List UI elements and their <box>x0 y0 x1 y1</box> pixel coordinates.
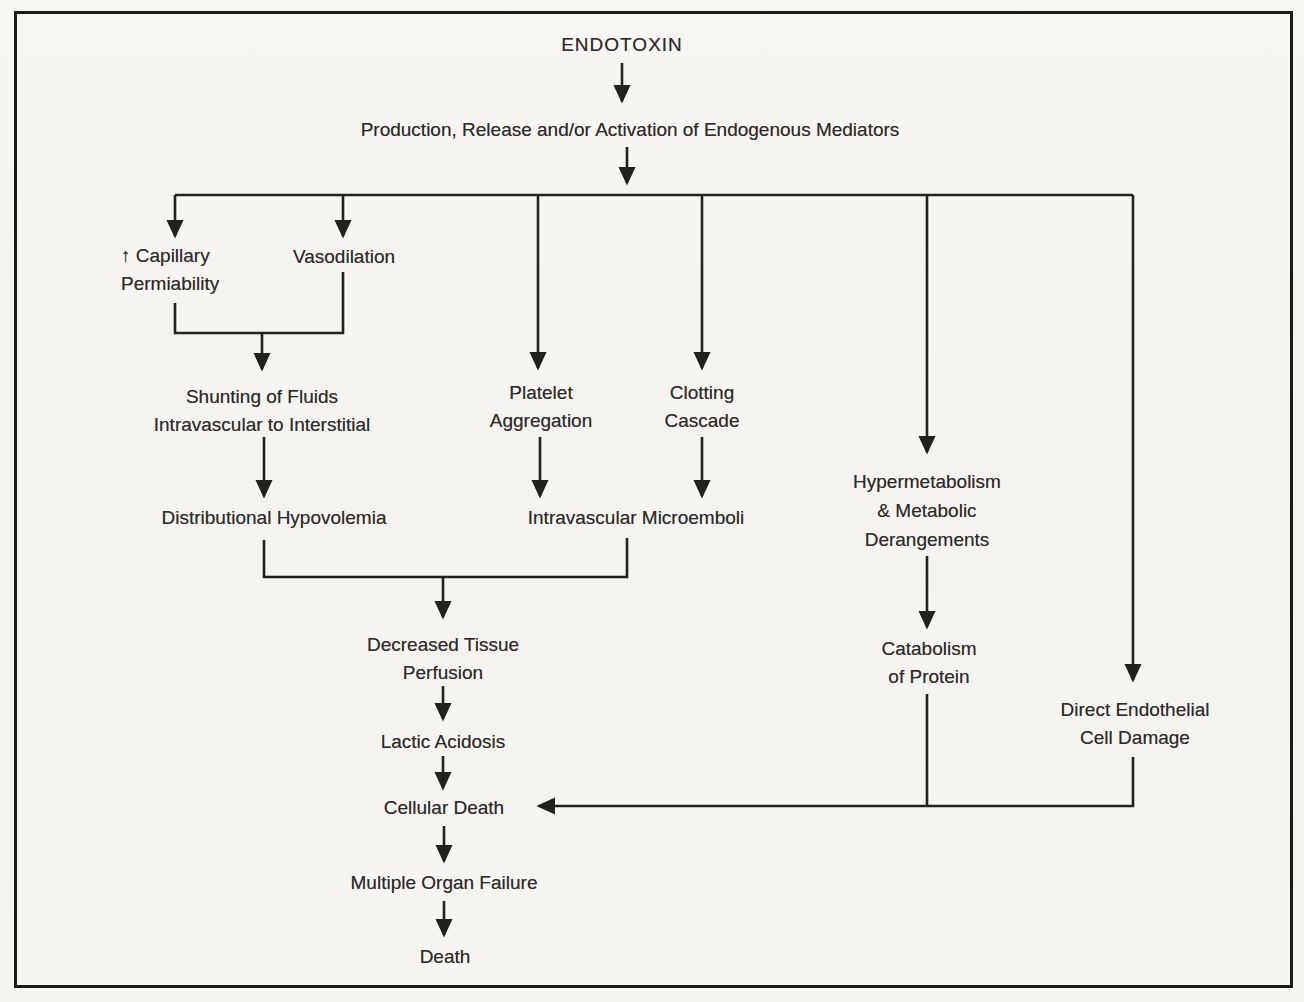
node-perfusion-line2: Perfusion <box>367 659 519 687</box>
node-hypermetabolism-line2: & Metabolic <box>853 496 1001 525</box>
node-death-label: Death <box>420 943 471 970</box>
node-microemboli-label: Intravascular Microemboli <box>528 504 744 531</box>
edge-endothelial-cellular <box>539 757 1133 806</box>
node-platelet-line2: Aggregation <box>490 407 592 435</box>
node-cellular-death-label: Cellular Death <box>384 794 504 821</box>
node-mediators-label: Production, Release and/or Activation of… <box>361 116 900 143</box>
node-clotting-cascade: Clotting Cascade <box>665 379 740 435</box>
node-mof-label: Multiple Organ Failure <box>351 869 538 896</box>
node-catabolism-of-protein: Catabolism of Protein <box>881 635 976 691</box>
node-hypermetabolism-line1: Hypermetabolism <box>853 467 1001 496</box>
node-mediators: Production, Release and/or Activation of… <box>361 116 900 143</box>
node-shunting-line2: Intravascular to Interstitial <box>154 411 370 439</box>
node-endotoxin-label: ENDOTOXIN <box>561 31 683 58</box>
node-vasodilation-label: Vasodilation <box>293 243 395 270</box>
node-decreased-tissue-perfusion: Decreased Tissue Perfusion <box>367 631 519 687</box>
scanned-page-background: ENDOTOXIN Production, Release and/or Act… <box>0 0 1304 1002</box>
node-endothelial-line1: Direct Endothelial <box>1061 696 1210 724</box>
node-multiple-organ-failure: Multiple Organ Failure <box>351 869 538 896</box>
node-shunting-line1: Shunting of Fluids <box>154 383 370 411</box>
node-clotting-line1: Clotting <box>665 379 740 407</box>
node-catabolism-line1: Catabolism <box>881 635 976 663</box>
node-platelet-line1: Platelet <box>490 379 592 407</box>
node-hypovolemia-label: Distributional Hypovolemia <box>162 504 387 531</box>
node-cellular-death: Cellular Death <box>384 794 504 821</box>
node-shunting: Shunting of Fluids Intravascular to Inte… <box>154 383 370 439</box>
node-death: Death <box>420 943 471 970</box>
node-clotting-line2: Cascade <box>665 407 740 435</box>
node-endothelial-line2: Cell Damage <box>1061 724 1210 752</box>
node-distributional-hypovolemia: Distributional Hypovolemia <box>162 504 387 531</box>
node-capillary-line1: ↑ Capillary <box>121 242 219 270</box>
node-capillary-line2: Permiability <box>121 270 219 298</box>
node-catabolism-line2: of Protein <box>881 663 976 691</box>
node-vasodilation: Vasodilation <box>293 243 395 270</box>
node-endotoxin: ENDOTOXIN <box>561 31 683 58</box>
node-lactic-label: Lactic Acidosis <box>381 728 506 755</box>
node-intravascular-microemboli: Intravascular Microemboli <box>528 504 744 531</box>
node-capillary-permeability: ↑ Capillary Permiability <box>121 242 219 298</box>
merge-hypovolemia-microemboli <box>264 538 627 577</box>
flowchart-connectors <box>0 0 1304 1002</box>
node-hypermetabolism-line3: Derangements <box>853 525 1001 554</box>
node-perfusion-line1: Decreased Tissue <box>367 631 519 659</box>
node-direct-endothelial-cell-damage: Direct Endothelial Cell Damage <box>1061 696 1210 752</box>
node-lactic-acidosis: Lactic Acidosis <box>381 728 506 755</box>
node-hypermetabolism: Hypermetabolism & Metabolic Derangements <box>853 467 1001 554</box>
node-platelet-aggregation: Platelet Aggregation <box>490 379 592 435</box>
